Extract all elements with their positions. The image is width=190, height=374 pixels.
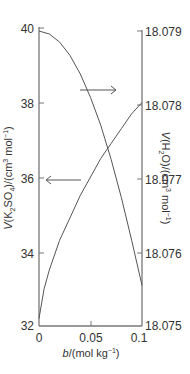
arrow-right-annotation [80,86,116,94]
svg-text:38: 38 [21,97,35,111]
svg-text:32: 32 [21,319,35,333]
svg-text:0.05: 0.05 [79,331,103,345]
left-tick-labels: 40 38 36 34 32 [21,22,35,333]
x-axis-label: b/(mol kg−1) [63,347,120,359]
arrow-left-annotation [46,176,81,184]
series-k2so4-curve [39,103,142,319]
left-y-axis-label: V(K2SO4)/(cm3 mol−1) [2,126,16,229]
svg-text:18.076: 18.076 [145,247,182,261]
svg-text:18.078: 18.078 [145,99,182,113]
chart: 40 38 36 34 32 18.079 18.078 18.077 18.0… [0,0,190,374]
right-y-axis-label: V(H2O)/(cm3 mol−1) [158,132,172,225]
svg-text:36: 36 [21,172,35,186]
svg-text:40: 40 [21,22,35,36]
svg-text:18.075: 18.075 [145,319,182,333]
svg-text:34: 34 [21,247,35,261]
svg-text:0: 0 [36,331,43,345]
series-h2o-curve [39,31,142,285]
svg-text:18.079: 18.079 [145,25,182,39]
svg-text:0.1: 0.1 [131,331,148,345]
x-tick-labels: 0 0.05 0.1 [36,331,148,345]
